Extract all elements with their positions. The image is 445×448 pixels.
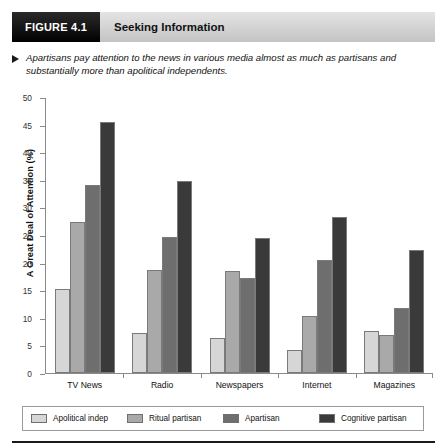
bar xyxy=(255,238,270,373)
x-tick-label: TV News xyxy=(67,380,102,390)
bar-chart: A Great Deal of Attention (%) 0510152025… xyxy=(0,88,445,396)
y-tick: 30 xyxy=(40,208,45,209)
x-tick-label: Newspapers xyxy=(216,380,264,390)
y-tick-label: 40 xyxy=(23,148,32,158)
figure-header: FIGURE 4.1 Seeking Information xyxy=(12,12,435,42)
bar xyxy=(162,237,177,373)
legend-label: Ritual partisan xyxy=(149,414,201,423)
figure-caption-text: Apartisans pay attention to the news in … xyxy=(26,52,436,77)
bar-groups: TV NewsRadioNewspapersInternetMagazines xyxy=(46,98,433,373)
bar xyxy=(317,260,332,373)
plot-area: 05101520253035404550 TV NewsRadioNewspap… xyxy=(45,98,433,374)
y-tick-label: 30 xyxy=(23,203,32,213)
bar xyxy=(177,181,192,373)
figure-number-badge: FIGURE 4.1 xyxy=(12,12,100,42)
bar xyxy=(55,289,70,373)
triangle-bullet-icon xyxy=(12,55,19,63)
y-tick-label: 20 xyxy=(23,259,32,269)
figure-title: Seeking Information xyxy=(100,12,435,42)
x-tick-label: Internet xyxy=(302,380,331,390)
y-tick: 15 xyxy=(40,291,45,292)
bar-group: Internet xyxy=(278,98,355,373)
y-tick: 10 xyxy=(40,319,45,320)
x-tick xyxy=(123,373,124,378)
y-tick: 50 xyxy=(40,98,45,99)
legend-label: Apolitical indep xyxy=(53,414,108,423)
legend-swatch xyxy=(319,414,335,423)
y-tick-label: 15 xyxy=(23,286,32,296)
y-tick: 45 xyxy=(40,126,45,127)
bar xyxy=(379,335,394,373)
y-tick-label: 25 xyxy=(23,231,32,241)
bar xyxy=(409,250,424,373)
bar xyxy=(364,331,379,374)
bar xyxy=(132,333,147,373)
x-tick-label: Magazines xyxy=(374,380,416,390)
x-tick xyxy=(201,373,202,378)
y-tick-label: 45 xyxy=(23,121,32,131)
bottom-divider xyxy=(12,441,435,443)
x-tick xyxy=(278,373,279,378)
bar xyxy=(302,316,317,373)
y-tick: 25 xyxy=(40,236,45,237)
chart-legend: Apolitical indepRitual partisanApartisan… xyxy=(22,406,424,431)
y-tick: 0 xyxy=(40,374,45,375)
x-axis-line xyxy=(45,373,433,374)
y-tick-label: 10 xyxy=(23,314,32,324)
bar xyxy=(100,122,115,373)
legend-swatch xyxy=(223,414,239,423)
bar-group: Newspapers xyxy=(201,98,278,373)
y-tick-label: 35 xyxy=(23,176,32,186)
bar xyxy=(210,338,225,373)
bar xyxy=(332,217,347,373)
bar xyxy=(287,350,302,373)
legend-swatch xyxy=(127,414,143,423)
x-tick xyxy=(356,373,357,378)
bar xyxy=(394,308,409,373)
y-tick: 35 xyxy=(40,181,45,182)
bar-group: Radio xyxy=(123,98,200,373)
figure-caption: Apartisans pay attention to the news in … xyxy=(12,52,436,77)
y-tick-label: 0 xyxy=(27,369,32,379)
y-tick: 40 xyxy=(40,153,45,154)
bar xyxy=(147,270,162,373)
legend-swatch xyxy=(31,414,47,423)
legend-item[interactable]: Cognitive partisan xyxy=(319,414,415,423)
bar xyxy=(85,185,100,373)
bar xyxy=(225,271,240,373)
bar xyxy=(240,278,255,373)
legend-item[interactable]: Ritual partisan xyxy=(127,414,223,423)
bar-group: Magazines xyxy=(356,98,433,373)
bar-group: TV News xyxy=(46,98,123,373)
y-tick: 20 xyxy=(40,264,45,265)
y-tick-label: 5 xyxy=(27,341,32,351)
x-tick-label: Radio xyxy=(151,380,173,390)
legend-item[interactable]: Apolitical indep xyxy=(31,414,127,423)
legend-label: Apartisan xyxy=(245,414,280,423)
legend-item[interactable]: Apartisan xyxy=(223,414,319,423)
y-tick: 5 xyxy=(40,346,45,347)
figure-page: FIGURE 4.1 Seeking Information Apartisan… xyxy=(0,0,445,448)
x-tick xyxy=(432,373,433,378)
y-tick-label: 50 xyxy=(23,93,32,103)
legend-label: Cognitive partisan xyxy=(341,414,407,423)
bar xyxy=(70,222,85,373)
